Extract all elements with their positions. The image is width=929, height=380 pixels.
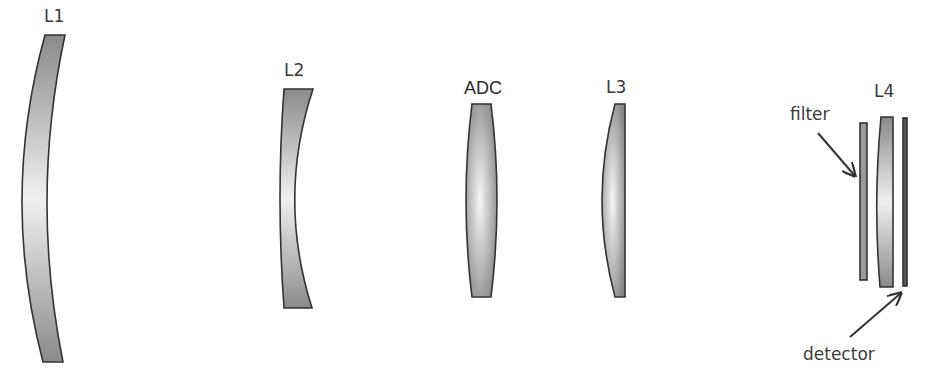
detector-label: detector xyxy=(803,344,875,364)
optical-layout-diagram: L1 L2 ADC L3 filter L4 detector xyxy=(0,0,929,380)
filter-plate: filter xyxy=(790,104,867,280)
lens-l3: L3 xyxy=(602,77,626,297)
lens-l4: L4 xyxy=(874,81,894,287)
lens-l1: L1 xyxy=(22,6,65,362)
lens-l2: L2 xyxy=(280,60,313,308)
detector-arrow-icon xyxy=(850,293,901,337)
lens-l2-label: L2 xyxy=(284,60,304,80)
lens-adc-label: ADC xyxy=(464,78,502,98)
lens-l3-label: L3 xyxy=(606,77,626,97)
filter-arrow-icon xyxy=(818,133,855,176)
lens-adc: ADC xyxy=(464,78,502,297)
lens-l4-label: L4 xyxy=(874,81,894,101)
lens-l1-label: L1 xyxy=(44,6,64,26)
filter-label: filter xyxy=(790,104,830,124)
